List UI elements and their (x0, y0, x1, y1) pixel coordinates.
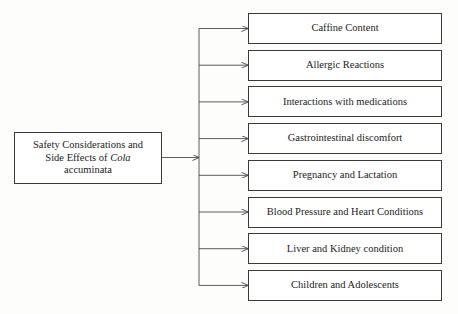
root-node-label: Safety Considerations andSide Effects of… (22, 139, 154, 176)
branch-node-label: Gastrointestinal discomfort (254, 132, 436, 144)
branch-node-liver-and-kidney-condition: Liver and Kidney condition (248, 233, 442, 264)
branch-node-interactions-with-medications: Interactions with medications (248, 86, 442, 117)
root-line-2-prefix: Side Effects of (45, 152, 110, 163)
branch-node-label: Interactions with medications (254, 96, 436, 108)
root-line-2-italic: Cola (110, 152, 130, 163)
root-line-3: accuminata (64, 164, 112, 175)
branch-node-label: Liver and Kidney condition (254, 243, 436, 255)
branch-node-gastrointestinal-discomfort: Gastrointestinal discomfort (248, 123, 442, 154)
branch-node-caffine-content: Caffine Content (248, 13, 442, 44)
branch-node-label: Pregnancy and Lactation (254, 169, 436, 181)
branch-node-pregnancy-and-lactation: Pregnancy and Lactation (248, 160, 442, 191)
root-line-1: Safety Considerations and (33, 139, 143, 150)
root-node: Safety Considerations andSide Effects of… (14, 132, 162, 184)
branch-node-label: Children and Adolescents (254, 279, 436, 291)
branch-node-label: Allergic Reactions (254, 59, 436, 71)
branch-node-allergic-reactions: Allergic Reactions (248, 50, 442, 81)
branch-node-label: Blood Pressure and Heart Conditions (254, 206, 436, 218)
branch-node-label: Caffine Content (254, 22, 436, 34)
diagram-canvas: Safety Considerations andSide Effects of… (0, 0, 458, 314)
branch-node-blood-pressure-and-heart-conditions: Blood Pressure and Heart Conditions (248, 197, 442, 228)
branch-node-children-and-adolescents: Children and Adolescents (248, 270, 442, 301)
